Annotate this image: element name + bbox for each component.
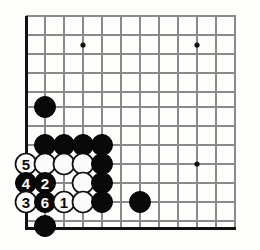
go-board-canvas: 542361: [0, 0, 260, 250]
stone-black-k[interactable]: [92, 173, 113, 194]
stone-white-g[interactable]: [54, 154, 75, 175]
white-stone-icon: [73, 173, 94, 194]
move-number-label: 3: [22, 194, 30, 211]
white-stone-icon: [54, 154, 75, 175]
black-stone-icon: [35, 97, 56, 118]
black-stone-icon: [92, 173, 113, 194]
go-board-diagram: 542361: [0, 0, 260, 250]
stone-black-move-2[interactable]: 2: [35, 173, 56, 194]
white-stone-icon: [73, 192, 94, 213]
stone-black-e[interactable]: [92, 135, 113, 156]
black-stone-icon: [35, 216, 56, 237]
stone-black-m[interactable]: [92, 192, 113, 213]
black-stone-icon: [92, 192, 113, 213]
black-stone-icon: [35, 135, 56, 156]
stone-black-d[interactable]: [73, 135, 94, 156]
move-number-label: 4: [22, 175, 31, 192]
black-stone-icon: [73, 135, 94, 156]
stone-white-h[interactable]: [73, 154, 94, 175]
stone-black-move-6[interactable]: 6: [35, 192, 56, 213]
star-point-upper-right: [194, 42, 199, 47]
black-stone-icon: [92, 154, 113, 175]
white-stone-icon: [35, 154, 56, 175]
stone-black-i[interactable]: [92, 154, 113, 175]
move-number-label: 1: [60, 194, 68, 211]
stone-black-b[interactable]: [35, 135, 56, 156]
stone-white-f[interactable]: [35, 154, 56, 175]
stone-white-j[interactable]: [73, 173, 94, 194]
black-stone-icon: [130, 192, 151, 213]
grid-horizontal-lines: [26, 16, 236, 221]
black-stone-icon: [92, 135, 113, 156]
move-number-label: 5: [22, 156, 30, 173]
stone-black-a[interactable]: [35, 97, 56, 118]
stone-black-n[interactable]: [130, 192, 151, 213]
black-stone-icon: [54, 135, 75, 156]
move-number-label: 6: [41, 194, 49, 211]
star-point-upper-left: [80, 42, 85, 47]
stone-white-l[interactable]: [73, 192, 94, 213]
star-point-center-right: [194, 161, 199, 166]
stone-white-move-5[interactable]: 5: [16, 154, 37, 175]
stone-black-move-4[interactable]: 4: [16, 173, 37, 194]
stone-white-move-1[interactable]: 1: [54, 192, 75, 213]
stone-black-o[interactable]: [35, 216, 56, 237]
stone-black-c[interactable]: [54, 135, 75, 156]
stone-white-move-3[interactable]: 3: [16, 192, 37, 213]
white-stone-icon: [73, 154, 94, 175]
move-number-label: 2: [41, 175, 49, 192]
